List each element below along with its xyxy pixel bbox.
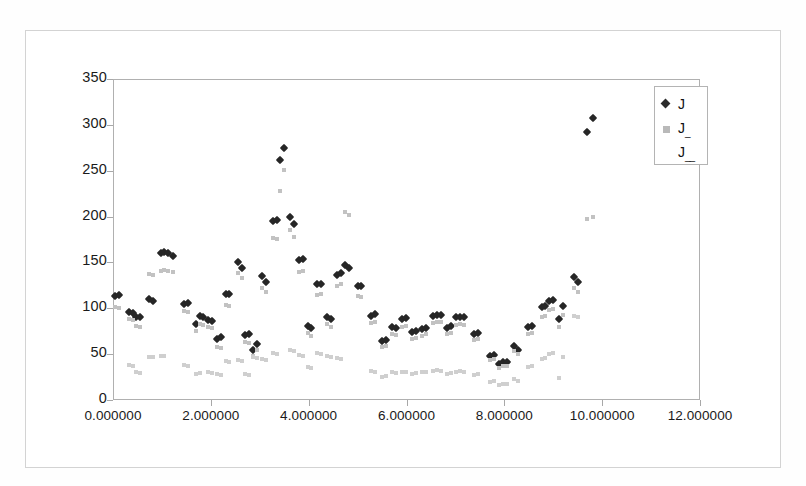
y-axis-tick-mark xyxy=(107,217,113,218)
data-point-ju xyxy=(240,276,244,280)
data-point-ju xyxy=(462,323,466,327)
data-point-j xyxy=(436,310,444,318)
data-point-j xyxy=(208,317,216,325)
data-point-ju xyxy=(497,366,501,370)
data-point-j xyxy=(258,272,266,280)
data-point-juu xyxy=(138,371,142,375)
data-point-juu xyxy=(384,374,388,378)
legend-entry-j[interactable]: J xyxy=(661,93,707,117)
data-point-ju xyxy=(198,322,202,326)
data-point-ju xyxy=(472,338,476,342)
data-point-ju xyxy=(492,357,496,361)
data-point-j xyxy=(470,330,478,338)
data-point-j xyxy=(341,261,349,269)
data-point-juu xyxy=(410,372,414,376)
data-point-j xyxy=(503,358,511,366)
data-point-ju xyxy=(215,345,219,349)
data-point-ju xyxy=(325,322,329,326)
data-point-ju xyxy=(458,322,462,326)
data-point-ju xyxy=(255,348,259,352)
data-point-ju xyxy=(390,332,394,336)
data-point-ju xyxy=(151,273,155,277)
data-point-j xyxy=(401,314,409,322)
data-point-ju xyxy=(315,293,319,297)
data-point-j xyxy=(549,296,557,304)
data-point-ju xyxy=(505,364,509,368)
chart-legend[interactable]: J J_ J__ xyxy=(654,86,708,165)
data-point-j xyxy=(241,331,249,339)
data-point-j xyxy=(149,297,157,305)
data-point-j xyxy=(317,279,325,287)
data-point-juu xyxy=(227,360,231,364)
legend-label-j: J xyxy=(678,97,685,111)
data-point-ju xyxy=(445,332,449,336)
data-point-j xyxy=(237,264,245,272)
data-point-ju xyxy=(335,284,339,288)
data-point-ju xyxy=(147,272,151,276)
data-point-juu xyxy=(329,355,333,359)
data-point-j xyxy=(514,345,522,353)
data-point-juu xyxy=(255,356,259,360)
data-point-j xyxy=(313,280,321,288)
data-point-j xyxy=(408,328,416,336)
data-point-juu xyxy=(210,371,214,375)
data-point-ju xyxy=(288,228,292,232)
data-point-juu xyxy=(526,365,530,369)
data-point-juu xyxy=(236,358,240,362)
data-point-j xyxy=(527,321,535,329)
data-point-ju xyxy=(309,334,313,338)
data-point-ju xyxy=(292,235,296,239)
data-point-juu xyxy=(390,370,394,374)
data-point-j xyxy=(573,277,581,285)
data-point-juu xyxy=(476,372,480,376)
data-point-ju xyxy=(243,340,247,344)
data-point-juu xyxy=(435,368,439,372)
data-point-ju xyxy=(394,333,398,337)
data-point-juu xyxy=(472,373,476,377)
data-point-ju xyxy=(138,325,142,329)
data-point-ju xyxy=(501,364,505,368)
data-point-j xyxy=(323,312,331,320)
data-point-juu xyxy=(151,355,155,359)
data-point-ju xyxy=(329,325,333,329)
data-point-juu xyxy=(373,370,377,374)
data-point-j xyxy=(216,332,224,340)
data-point-juu xyxy=(431,369,435,373)
square-marker-icon xyxy=(661,123,673,135)
legend-entry-j2[interactable]: J_ xyxy=(661,117,707,141)
data-point-j xyxy=(125,308,133,316)
data-point-juu xyxy=(540,357,544,361)
data-point-ju xyxy=(134,324,138,328)
data-point-j xyxy=(452,313,460,321)
legend-label-j2-sub: _ xyxy=(685,127,690,138)
data-point-j xyxy=(128,309,136,317)
data-point-j xyxy=(367,311,375,319)
data-point-juu xyxy=(492,379,496,383)
data-point-ju xyxy=(247,341,251,345)
data-point-ju xyxy=(591,215,595,219)
data-point-juu xyxy=(335,356,339,360)
data-point-j xyxy=(382,336,390,344)
data-point-j xyxy=(555,315,563,323)
data-point-ju xyxy=(166,269,170,273)
data-point-ju xyxy=(512,349,516,353)
legend-entry-j3[interactable]: J__ xyxy=(661,141,707,165)
data-point-ju xyxy=(439,320,443,324)
data-point-juu xyxy=(301,354,305,358)
data-point-j xyxy=(233,257,241,265)
data-point-j xyxy=(132,312,140,320)
data-point-j xyxy=(249,345,257,353)
data-point-ju xyxy=(476,337,480,341)
data-point-juu xyxy=(501,382,505,386)
data-point-juu xyxy=(224,359,228,363)
x-axis-tick-label: 0.000000 xyxy=(84,408,141,423)
data-point-ju xyxy=(435,320,439,324)
x-axis-tick-mark xyxy=(602,400,603,406)
data-point-juu xyxy=(309,366,313,370)
data-point-j xyxy=(290,220,298,228)
data-point-j xyxy=(225,289,233,297)
data-point-j xyxy=(157,249,165,257)
data-point-j xyxy=(307,324,315,332)
data-point-ju xyxy=(339,282,343,286)
data-point-ju xyxy=(516,352,520,356)
